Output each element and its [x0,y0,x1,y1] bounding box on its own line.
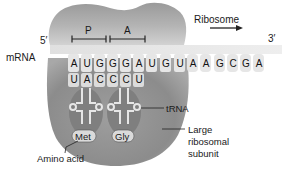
trna-label: tRNA [166,103,189,114]
trna-met [69,88,103,136]
a-site-label: A [124,25,131,36]
mrna-base: C [227,58,239,69]
anticodon-base: C [94,74,106,85]
anticodon-base: C [120,74,132,85]
five-prime-label: 5′ [40,35,47,46]
mrna-base: U [146,58,158,69]
mrna-label: mRNA [6,52,35,63]
mrna-base: G [240,58,252,69]
large-subunit-label-line1: Large [188,124,212,135]
p-site-label: P [85,25,92,36]
mrna-base: U [81,58,93,69]
direction-arrow-icon [210,25,243,31]
mrna-base: A [200,58,212,69]
mrna-base: G [214,58,226,69]
anticodon-base: C [107,74,119,85]
amino-acid-label: Amino acid [37,153,84,164]
large-subunit-label-line2: ribosomal [188,136,229,147]
mrna-base: A [68,58,80,69]
amino-acid-gly: Gly [115,131,129,142]
ribosome-label: Ribosome [194,14,239,25]
mrna-base: G [94,58,106,69]
mrna-base: U [174,58,186,69]
mrna-base: A [253,58,265,69]
amino-acid-met: Met [75,131,91,142]
mrna-base: G [107,58,119,69]
mrna-base: A [187,58,199,69]
large-subunit-label-line3: subunit [188,148,219,159]
mrna-base: A [133,58,145,69]
three-prime-label: 3′ [268,33,275,44]
anticodon-base: U [133,74,145,85]
trna-gly [107,88,141,136]
mrna-base: G [120,58,132,69]
anticodon-base: A [81,74,93,85]
anticodon-base: U [68,74,80,85]
mrna-base: G [160,58,172,69]
